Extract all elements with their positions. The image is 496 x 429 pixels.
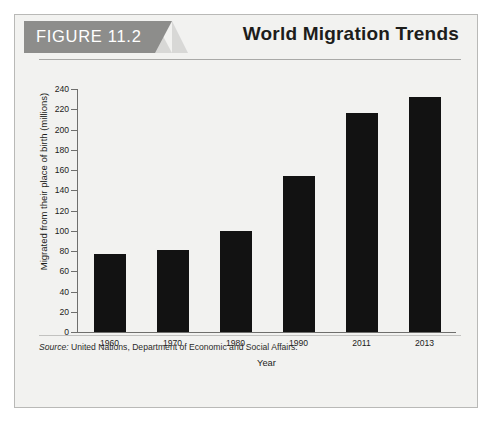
figure-header: FIGURE 11.2 World Migration Trends — [15, 15, 477, 61]
y-axis-tick-label: 80 — [35, 247, 69, 256]
y-axis-tick-label: 100 — [35, 227, 69, 236]
bar — [220, 231, 252, 332]
source-text: United Nations, Department of Economic a… — [69, 342, 298, 352]
y-axis-tick — [71, 170, 78, 171]
y-axis-tick — [71, 271, 78, 272]
figure-container: FIGURE 11.2 World Migration Trends Migra… — [14, 14, 478, 408]
bar — [346, 113, 378, 332]
y-axis-tick — [71, 190, 78, 191]
chart-plot-area: Migrated from their place of birth (mill… — [15, 61, 477, 409]
x-axis-tick-label: 2013 — [395, 338, 455, 348]
figure-tag-notch-icon — [155, 21, 172, 53]
bar — [283, 176, 315, 332]
y-axis-tick-label: 40 — [35, 288, 69, 297]
y-axis-tick — [71, 251, 78, 252]
y-axis-tick — [71, 292, 78, 293]
bar — [409, 97, 441, 332]
y-axis-tick-label: 160 — [35, 166, 69, 175]
y-axis-tick-label: 200 — [35, 126, 69, 135]
y-axis-tick — [71, 211, 78, 212]
y-axis-tick-label: 220 — [35, 105, 69, 114]
y-axis-tick-label: 20 — [35, 308, 69, 317]
y-axis-tick-label: 120 — [35, 207, 69, 216]
source-divider — [39, 335, 461, 336]
x-axis-line — [77, 332, 456, 333]
y-axis-tick-label: 180 — [35, 146, 69, 155]
header-divider — [39, 59, 461, 60]
figure-tag-banner: FIGURE 11.2 — [24, 21, 204, 53]
source-label: Source: — [39, 342, 69, 352]
y-axis-tick-label: 240 — [35, 85, 69, 94]
bar — [94, 254, 126, 332]
y-axis-tick — [71, 109, 78, 110]
y-axis-tick — [71, 89, 78, 90]
source-note: Source: United Nations, Department of Ec… — [39, 342, 298, 352]
y-axis-tick — [71, 150, 78, 151]
y-axis-tick — [71, 231, 78, 232]
figure-tag-tail-secondary-icon — [172, 21, 188, 53]
bar — [157, 250, 189, 332]
figure-tag-label: FIGURE 11.2 — [36, 27, 142, 46]
y-axis-tick-label: 140 — [35, 186, 69, 195]
figure-title: World Migration Trends — [243, 23, 459, 45]
y-axis-title: Migrated from their place of birth (mill… — [38, 62, 49, 302]
y-axis-tick — [71, 332, 78, 333]
y-axis-tick — [71, 312, 78, 313]
y-axis-tick — [71, 130, 78, 131]
x-axis-title: Year — [77, 358, 456, 368]
x-axis-tick-label: 2011 — [332, 338, 392, 348]
y-axis-tick-label: 60 — [35, 267, 69, 276]
